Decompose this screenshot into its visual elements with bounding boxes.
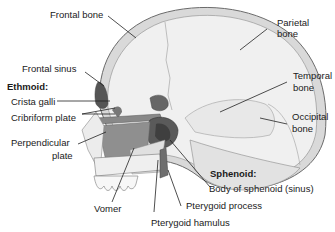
label-body-of-sphenoid: Body of sphenoid (sinus) [209, 183, 314, 194]
label-cribriform-plate: Cribriform plate [11, 112, 76, 123]
label-crista-galli: Crista galli [11, 96, 55, 107]
sphenoid-upper-shape [150, 95, 168, 111]
label-ethmoid-heading: Ethmoid: [7, 81, 48, 92]
label-pterygoid-hamulus: Pterygoid hamulus [151, 217, 230, 228]
label-parietal-bone-line2: bone [277, 28, 298, 39]
label-occipital-bone-line1: Occipital [292, 111, 328, 122]
label-perpendicular-plate-line1: Perpendicular [11, 137, 70, 148]
label-frontal-sinus: Frontal sinus [22, 63, 76, 74]
label-temporal-bone-line1: Temporal [293, 70, 332, 81]
label-perpendicular-plate-line2: plate [52, 150, 73, 161]
teeth-shape [94, 176, 138, 191]
label-pterygoid-process: Pterygoid process [186, 200, 262, 211]
label-temporal-bone-line2: bone [293, 82, 314, 93]
label-frontal-bone: Frontal bone [50, 9, 103, 20]
label-sphenoid-heading: Sphenoid: [210, 168, 256, 179]
label-vomer: Vomer [94, 203, 121, 214]
label-parietal-bone-line1: Parietal [277, 17, 309, 28]
label-occipital-bone-line2: bone [292, 123, 313, 134]
